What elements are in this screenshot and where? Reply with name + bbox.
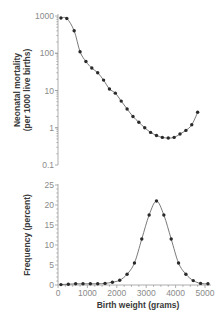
frequency-data-point [133, 261, 136, 264]
mortality-data-point [120, 99, 123, 102]
birth-weight-x-axis-title: Birth weight (grams) [97, 300, 180, 310]
mortality-data-point [149, 131, 152, 134]
frequency-data-point [103, 282, 106, 285]
mortality-data-point [131, 115, 134, 118]
frequency-data-point [118, 279, 121, 282]
mortality-y-tick-label: 1 [49, 123, 54, 133]
mortality-data-point [96, 71, 99, 74]
mortality-data-point [143, 126, 146, 129]
frequency-data-point [155, 199, 158, 202]
frequency-data-point [169, 237, 172, 240]
frequency-y-tick-label: 5 [49, 260, 54, 270]
frequency-data-point [89, 282, 92, 285]
frequency-data-point [67, 283, 70, 286]
birth-weight-x-tick-label: 2000 [107, 288, 126, 298]
frequency-curve [61, 201, 208, 285]
frequency-y-axis: 0510152025 [45, 180, 58, 290]
frequency-data-point [140, 237, 143, 240]
frequency-y-tick-label: 20 [45, 200, 55, 210]
mortality-data-point [190, 123, 193, 126]
frequency-data-point [111, 281, 114, 284]
mortality-data-point [65, 17, 68, 20]
birth-weight-frequency-chart: 0510152025 010002000300040005000 Frequen… [22, 180, 215, 310]
mortality-y-axis-subtitle: (per 1000 live births) [22, 48, 32, 131]
mortality-data-point [84, 60, 87, 63]
frequency-data-point [74, 282, 77, 285]
neonatal-mortality-chart: 10001001010.1 Neonatal mortality (per 10… [12, 11, 199, 170]
frequency-data-point [162, 213, 165, 216]
mortality-data-point [155, 134, 158, 137]
frequency-data-point [125, 273, 128, 276]
birth-weight-x-axis: 010002000300040005000 [56, 285, 215, 298]
birth-weight-x-tick-label: 3000 [137, 288, 156, 298]
mortality-data-point [137, 121, 140, 124]
mortality-data-point [78, 50, 81, 53]
frequency-data-point [81, 282, 84, 285]
mortality-data-point [114, 91, 117, 94]
frequency-data-point [206, 282, 209, 285]
mortality-data-point [196, 111, 199, 114]
mortality-data-point [167, 136, 170, 139]
frequency-data-point [199, 282, 202, 285]
mortality-data-point [178, 132, 181, 135]
mortality-y-axis: 10001001010.1 [35, 11, 58, 170]
frequency-data-point [147, 213, 150, 216]
mortality-data-point [184, 129, 187, 132]
mortality-data-point [59, 16, 62, 19]
mortality-data-point [108, 87, 111, 90]
frequency-data-point [192, 279, 195, 282]
birth-weight-x-tick-label: 4000 [166, 288, 185, 298]
mortality-curve [61, 17, 198, 138]
mortality-y-tick-label: 0.1 [42, 160, 54, 170]
mortality-data-point [125, 107, 128, 110]
frequency-data-point [59, 283, 62, 286]
frequency-data-point [184, 273, 187, 276]
frequency-data-points [59, 199, 209, 286]
mortality-y-tick-label: 10 [45, 86, 55, 96]
frequency-y-tick-label: 25 [45, 180, 55, 190]
frequency-y-tick-label: 0 [49, 280, 54, 290]
frequency-y-tick-label: 15 [45, 220, 55, 230]
mortality-y-tick-label: 1000 [35, 11, 54, 21]
birth-weight-x-tick-label: 5000 [196, 288, 215, 298]
mortality-data-point [102, 78, 105, 81]
birth-weight-x-tick-label: 1000 [78, 288, 97, 298]
mortality-data-points [59, 16, 199, 139]
mortality-data-point [161, 136, 164, 139]
mortality-y-tick-label: 100 [40, 48, 54, 58]
birth-weight-x-tick-label: 0 [56, 288, 61, 298]
mortality-y-axis-title: Neonatal mortality [12, 53, 22, 127]
birth-weight-charts: 10001001010.1 Neonatal mortality (per 10… [0, 0, 220, 324]
frequency-data-point [177, 261, 180, 264]
mortality-data-point [72, 29, 75, 32]
frequency-data-point [96, 282, 99, 285]
frequency-y-axis-title: Frequency (percent) [22, 194, 32, 276]
mortality-data-point [90, 66, 93, 69]
frequency-y-tick-label: 10 [45, 240, 55, 250]
mortality-data-point [172, 136, 175, 139]
